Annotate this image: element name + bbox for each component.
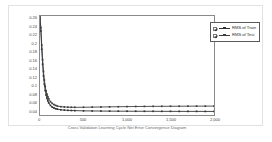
series-marker: [117, 106, 119, 108]
x-axis-tick-label: 0: [38, 118, 40, 122]
series-marker: [161, 105, 163, 107]
series-marker: [178, 105, 180, 107]
x-axis-title: Cross Validation Learning Cycle Net Erro…: [39, 125, 215, 130]
series-marker: [53, 107, 55, 109]
series-marker: [70, 110, 72, 112]
series-marker: [83, 106, 85, 108]
series-marker: [109, 110, 111, 112]
series-marker: [57, 105, 59, 107]
series-marker: [46, 98, 48, 100]
series-marker: [100, 110, 102, 112]
series-marker: [152, 106, 154, 108]
series-marker: [74, 110, 76, 112]
series-marker: [196, 105, 198, 107]
series-line: [40, 18, 214, 111]
series-marker: [204, 105, 206, 107]
series-marker: [144, 106, 146, 108]
y-axis-tick-label: 0.16: [29, 59, 37, 63]
series-marker: [213, 105, 214, 107]
series-1: [40, 18, 214, 113]
y-axis-tick-label: 0.04: [29, 110, 37, 114]
series-marker: [170, 111, 172, 113]
series-marker: [43, 70, 45, 72]
legend-item[interactable]: RMS of Test: [213, 32, 256, 39]
series-marker: [135, 110, 137, 112]
series-marker: [51, 106, 53, 108]
series-marker: [126, 110, 128, 112]
series-marker: [152, 110, 154, 112]
y-axis-tick-label: 0.08: [29, 93, 37, 97]
series-marker: [135, 106, 137, 108]
series-marker: [213, 111, 214, 113]
series-marker: [40, 16, 41, 18]
series-marker: [196, 111, 198, 113]
series-marker: [53, 104, 55, 106]
series-2: [40, 16, 214, 108]
y-axis-tick-label: 0.18: [29, 50, 37, 54]
legend-marker-icon: [223, 27, 226, 30]
y-axis-tick-label: 0.06: [29, 101, 37, 105]
x-axis-tick-label: 1,000: [122, 118, 132, 122]
series-marker: [109, 106, 111, 108]
series-marker: [47, 100, 49, 102]
series-marker: [47, 96, 49, 98]
y-axis-tick-label: 0.2: [31, 42, 37, 46]
series-marker: [44, 85, 46, 87]
series-marker: [91, 110, 93, 112]
chart-legend[interactable]: RMS of TrainRMS of Test: [210, 22, 260, 42]
series-marker: [170, 105, 172, 107]
series-marker: [67, 106, 69, 108]
series-marker: [91, 106, 93, 108]
series-marker: [57, 108, 59, 110]
series-marker: [60, 109, 62, 111]
series-marker: [60, 106, 62, 108]
y-axis-tick-label: 0.1: [31, 84, 37, 88]
legend-item[interactable]: RMS of Train: [213, 25, 256, 32]
legend-checkbox[interactable]: [213, 27, 217, 31]
series-marker: [46, 93, 48, 95]
y-axis-tick-label: 0.24: [29, 25, 37, 29]
series-marker: [48, 102, 50, 104]
series-marker: [44, 79, 46, 81]
x-axis-tick-label: 1,500: [166, 118, 176, 122]
series-marker: [51, 103, 53, 105]
y-axis-tick-label: 0.26: [29, 16, 37, 20]
series-marker: [50, 105, 52, 107]
series-marker: [40, 27, 42, 29]
series-marker: [161, 111, 163, 113]
legend-marker-icon: [223, 34, 226, 37]
series-line: [40, 17, 214, 107]
legend-series-swatch: [219, 26, 230, 31]
series-marker: [48, 98, 50, 100]
legend-series-swatch: [219, 33, 230, 38]
x-axis-tick-labels: 05001,0001,5002,000: [39, 118, 215, 125]
series-marker: [83, 110, 85, 112]
series-marker: [117, 110, 119, 112]
series-marker: [64, 106, 66, 108]
series-marker: [187, 105, 189, 107]
series-marker: [144, 110, 146, 112]
series-marker: [70, 106, 72, 108]
y-axis-tick-label: 0.14: [29, 67, 37, 71]
legend-item-label: RMS of Test: [232, 33, 254, 37]
series-marker: [64, 109, 66, 111]
series-marker: [42, 59, 44, 61]
x-axis-tick-label: 500: [80, 118, 87, 122]
plot-svg: [40, 16, 214, 115]
legend-checkbox[interactable]: [213, 34, 217, 38]
series-marker: [50, 101, 52, 103]
y-axis-tick-labels: 0.260.240.220.20.180.160.140.120.10.080.…: [11, 15, 37, 116]
series-marker: [45, 90, 47, 92]
series-marker: [74, 106, 76, 108]
x-axis-tick-label: 2,000: [210, 118, 220, 122]
y-axis-tick-label: 0.12: [29, 76, 37, 80]
series-marker: [67, 110, 69, 112]
plot-area: [39, 15, 215, 116]
series-marker: [41, 44, 43, 46]
y-axis-tick-label: 0.22: [29, 33, 37, 37]
series-marker: [100, 106, 102, 108]
legend-item-label: RMS of Train: [232, 26, 256, 30]
series-marker: [55, 105, 57, 107]
series-marker: [178, 111, 180, 113]
series-marker: [126, 106, 128, 108]
